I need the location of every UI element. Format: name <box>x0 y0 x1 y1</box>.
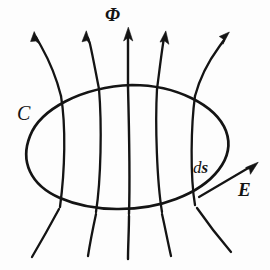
field-line-3-lower <box>128 216 129 259</box>
field-vector-label: E <box>238 180 251 199</box>
field-line-4 <box>157 31 169 89</box>
field-line-5-interior <box>192 96 195 205</box>
field-line-1 <box>31 32 61 96</box>
curve-label: C <box>17 103 30 123</box>
field-line-2-interior <box>96 89 101 212</box>
flux-diagram: .ink { fill: none; stroke: #141414; stro… <box>0 0 270 270</box>
diagram-canvas: .ink { fill: none; stroke: #141414; stro… <box>0 0 270 270</box>
field-line-1-interior <box>60 96 64 207</box>
field-line-5 <box>195 32 229 96</box>
field-line-1-lower <box>32 209 59 257</box>
field-line-group-lower <box>32 208 231 259</box>
field-line-3-interior <box>128 87 129 214</box>
field-line-2 <box>82 31 99 89</box>
field-line-4-lower <box>162 214 171 256</box>
field-line-3 <box>124 27 133 87</box>
field-line-2-lower <box>88 214 96 256</box>
element-s-label: s <box>202 158 209 177</box>
element-d-label: d <box>193 158 202 177</box>
element-ds-label: ds <box>193 159 208 176</box>
field-line-group-interior <box>60 87 195 214</box>
flux-label: Φ <box>105 5 120 24</box>
field-line-5-lower <box>197 208 231 252</box>
field-line-4-interior <box>156 89 162 212</box>
